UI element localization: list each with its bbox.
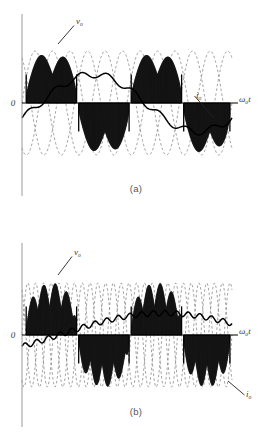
label-output-voltage: vo bbox=[74, 247, 81, 258]
panel-a-caption: (a) bbox=[0, 183, 272, 194]
origin-label: 0 bbox=[11, 330, 16, 340]
leader-line-io bbox=[228, 381, 245, 395]
label-output-current: io bbox=[196, 90, 202, 101]
panel-b-caption: (b) bbox=[0, 406, 272, 417]
origin-label: 0 bbox=[11, 98, 16, 108]
label-output-voltage: vo bbox=[76, 16, 83, 27]
figure-cycloconverter-waveforms: 0ωotvoio (a) 0ωotvoio (b) bbox=[0, 0, 272, 443]
x-axis-label: ωot bbox=[239, 326, 251, 337]
label-output-current: io bbox=[246, 389, 252, 400]
leader-line-vo bbox=[58, 257, 72, 276]
leader-line-vo bbox=[58, 26, 74, 45]
x-axis-label: ωot bbox=[239, 94, 251, 105]
